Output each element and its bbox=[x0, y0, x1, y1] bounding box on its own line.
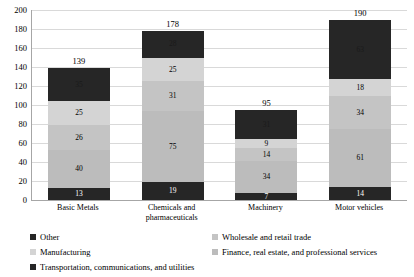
x-axis-label: Motor vehicles bbox=[320, 203, 398, 227]
bar-segment-label: 28 bbox=[169, 40, 177, 48]
legend-label: Wholesale and retail trade bbox=[222, 232, 311, 242]
stacked-bar-chart: 200180160140120100806040200 134026253513… bbox=[0, 0, 414, 277]
bar-total-label: 178 bbox=[142, 20, 204, 29]
legend-item[interactable]: Other bbox=[30, 232, 59, 242]
bar-group: 1340262535139197531252817873414931951461… bbox=[32, 10, 407, 200]
plot-area: 200180160140120100806040200 134026253513… bbox=[0, 0, 414, 225]
bar-segment-label: 19 bbox=[169, 187, 177, 195]
bar-segment-label: 26 bbox=[75, 134, 83, 142]
y-axis-tick: 20 bbox=[19, 177, 28, 185]
x-axis-labels: Basic MetalsChemicals and pharmaceutical… bbox=[31, 203, 406, 227]
bar-segment-label: 35 bbox=[75, 81, 83, 89]
bar-segment[interactable]: 14 bbox=[235, 148, 297, 161]
legend-swatch-icon bbox=[212, 249, 218, 255]
bar-segment-label: 61 bbox=[356, 154, 364, 162]
bar-segment[interactable]: 9 bbox=[235, 139, 297, 148]
bar-segment[interactable]: 26 bbox=[48, 125, 110, 150]
bar-segment[interactable]: 18 bbox=[329, 79, 391, 96]
chart-legend: OtherWholesale and retail tradeManufactu… bbox=[0, 230, 414, 277]
bar-segment-label: 75 bbox=[169, 143, 177, 151]
legend-item[interactable]: Transportation, communications, and util… bbox=[30, 262, 194, 272]
y-axis-tick: 80 bbox=[19, 120, 28, 128]
bar-column[interactable]: 1461341863190 bbox=[329, 10, 391, 200]
bar-segment[interactable]: 25 bbox=[48, 101, 110, 125]
bar-segment-label: 25 bbox=[75, 109, 83, 117]
y-axis-tick: 140 bbox=[14, 63, 27, 71]
bar-column[interactable]: 7341493195 bbox=[235, 10, 297, 200]
bar-segment[interactable]: 35 bbox=[48, 68, 110, 101]
legend-label: Manufacturing bbox=[40, 247, 91, 257]
bar-segment[interactable]: 75 bbox=[142, 111, 204, 182]
bar-segment[interactable]: 34 bbox=[235, 161, 297, 193]
legend-item[interactable]: Manufacturing bbox=[30, 247, 91, 257]
legend-item[interactable]: Finance, real estate, and professional s… bbox=[212, 247, 377, 257]
bar-segment[interactable]: 31 bbox=[142, 81, 204, 110]
x-axis-label: Basic Metals bbox=[39, 203, 117, 227]
legend-swatch-icon bbox=[212, 234, 218, 240]
bar-segment-label: 34 bbox=[263, 173, 271, 181]
y-axis-tick: 60 bbox=[19, 139, 28, 147]
legend-swatch-icon bbox=[30, 264, 36, 270]
legend-swatch-icon bbox=[30, 234, 36, 240]
bar-segment[interactable]: 13 bbox=[48, 188, 110, 200]
y-axis-tick: 180 bbox=[14, 25, 27, 33]
legend-item[interactable]: Wholesale and retail trade bbox=[212, 232, 311, 242]
bar-segment[interactable]: 31 bbox=[235, 110, 297, 139]
bar-segment-label: 34 bbox=[356, 109, 364, 117]
bar-segment[interactable]: 14 bbox=[329, 187, 391, 200]
bar-segment-label: 14 bbox=[356, 190, 364, 198]
legend-label: Other bbox=[40, 232, 59, 242]
bar-segment-label: 7 bbox=[265, 193, 269, 200]
y-axis-tick: 40 bbox=[19, 158, 28, 166]
bar-segment-label: 31 bbox=[169, 92, 177, 100]
bar-segment[interactable]: 19 bbox=[142, 182, 204, 200]
legend-swatch-icon bbox=[30, 249, 36, 255]
y-axis: 200180160140120100806040200 bbox=[0, 10, 30, 200]
y-axis-tick: 120 bbox=[14, 82, 27, 90]
y-axis-tick: 100 bbox=[14, 101, 27, 109]
bar-segment[interactable]: 61 bbox=[329, 129, 391, 187]
bar-segment-label: 40 bbox=[75, 165, 83, 173]
bar-segment-label: 63 bbox=[356, 46, 364, 54]
bar-segment[interactable]: 63 bbox=[329, 20, 391, 80]
bar-total-label: 190 bbox=[329, 9, 391, 18]
legend-label: Finance, real estate, and professional s… bbox=[222, 247, 377, 257]
bar-total-label: 139 bbox=[48, 57, 110, 66]
x-axis-label: Machinery bbox=[226, 203, 304, 227]
bar-segment[interactable]: 7 bbox=[235, 193, 297, 200]
bar-segment[interactable]: 28 bbox=[142, 31, 204, 58]
bar-segment-label: 9 bbox=[265, 140, 269, 148]
bar-segment-label: 25 bbox=[169, 66, 177, 74]
bar-segment[interactable]: 25 bbox=[142, 58, 204, 82]
bar-segment-label: 13 bbox=[75, 190, 83, 198]
plot-canvas: 1340262535139197531252817873414931951461… bbox=[31, 10, 407, 201]
bar-segment[interactable]: 40 bbox=[48, 150, 110, 188]
bar-segment-label: 14 bbox=[263, 151, 271, 159]
y-axis-tick: 160 bbox=[14, 44, 27, 52]
bar-segment-label: 31 bbox=[263, 121, 271, 129]
bar-segment[interactable]: 34 bbox=[329, 96, 391, 128]
bar-column[interactable]: 1340262535139 bbox=[48, 10, 110, 200]
bar-column[interactable]: 1975312528178 bbox=[142, 10, 204, 200]
legend-label: Transportation, communications, and util… bbox=[40, 262, 194, 272]
x-axis-label: Chemicals and pharmaceuticals bbox=[133, 203, 211, 227]
y-axis-tick: 200 bbox=[14, 6, 27, 14]
bar-total-label: 95 bbox=[235, 99, 297, 108]
bar-segment-label: 18 bbox=[356, 84, 364, 92]
y-axis-tick: 0 bbox=[23, 196, 27, 204]
